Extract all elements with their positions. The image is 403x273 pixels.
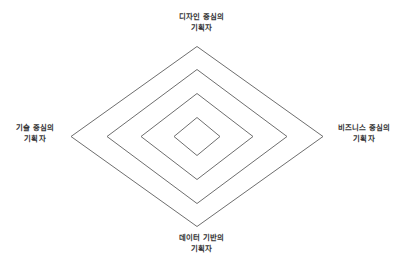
axis-label-bottom-line2: 기획자 [0, 244, 403, 255]
diamond-ring-4 [71, 47, 323, 227]
diamond-ring-3 [107, 70, 287, 204]
axis-label-left: 기술 중심의 기획자 [2, 123, 68, 144]
diamond-ring-1 [174, 118, 220, 156]
axis-label-right-line1: 비즈니스 중심의 [338, 123, 390, 132]
axis-label-left-line2: 기획자 [2, 134, 68, 145]
diamond-rings-group [71, 47, 323, 227]
axis-label-left-line1: 기술 중심의 [16, 123, 54, 132]
diamond-ring-2 [141, 94, 253, 180]
axis-label-top: 디자인 중심의 기획자 [0, 12, 403, 33]
diagram-canvas: 디자인 중심의 기획자 비즈니스 중심의 기획자 데이터 기반의 기획자 기술 … [0, 0, 403, 273]
axis-label-bottom: 데이터 기반의 기획자 [0, 233, 403, 254]
axis-label-right: 비즈니스 중심의 기획자 [328, 123, 400, 144]
axis-label-right-line2: 기획자 [328, 134, 400, 145]
axis-label-top-line2: 기획자 [0, 23, 403, 34]
axis-label-top-line1: 디자인 중심의 [179, 12, 224, 21]
axis-label-bottom-line1: 데이터 기반의 [179, 233, 224, 242]
